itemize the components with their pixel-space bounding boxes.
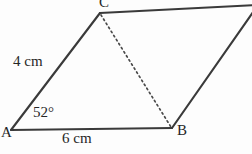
angle-measure-label-a: 52° — [33, 105, 54, 120]
edge-side-CD — [100, 5, 252, 13]
edge-side-BD — [172, 5, 252, 128]
side-length-label-ac: 4 cm — [13, 54, 43, 69]
vertex-label-c: C — [99, 0, 109, 10]
geometry-canvas — [0, 0, 252, 154]
edge-side-AC — [11, 13, 100, 130]
edge-diagonal-CB — [101, 15, 171, 127]
side-length-label-ab: 6 cm — [62, 131, 92, 146]
vertex-label-b: B — [177, 123, 187, 138]
vertex-label-a: A — [1, 125, 12, 140]
geometry-figure: A B C 4 cm 6 cm 52° — [0, 0, 252, 154]
